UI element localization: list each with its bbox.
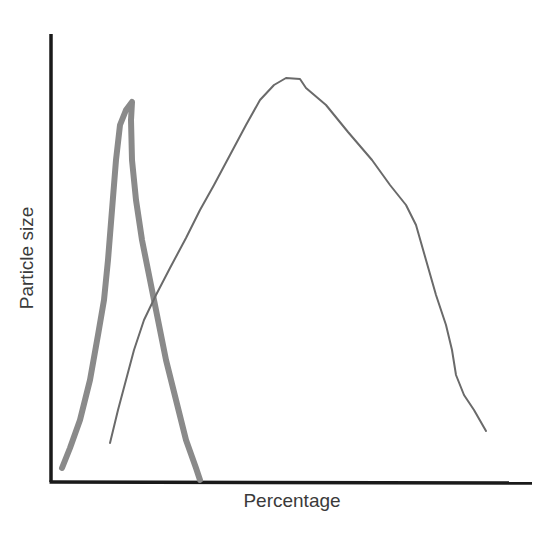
x-axis — [50, 482, 533, 483]
broad-distribution-curve — [110, 78, 486, 443]
x-axis-label: Percentage — [0, 490, 554, 512]
y-axis-label: Particle size — [16, 207, 38, 309]
narrow-distribution-curve — [62, 102, 200, 480]
chart-canvas — [0, 0, 554, 534]
